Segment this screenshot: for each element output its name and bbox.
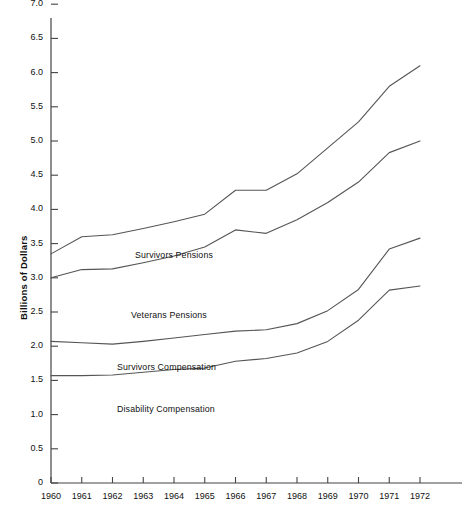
y-tick-label: 1.0 bbox=[9, 409, 43, 419]
line-chart-plot bbox=[0, 0, 470, 520]
y-tick-label: 0.5 bbox=[9, 443, 43, 453]
series-label-2: Survivors Compensation bbox=[117, 362, 216, 372]
y-tick-label: 5.5 bbox=[9, 101, 43, 111]
y-tick-label: 3.5 bbox=[9, 238, 43, 248]
x-tick-label: 1972 bbox=[400, 491, 440, 501]
series-line-0 bbox=[51, 66, 420, 254]
y-tick-label: 0 bbox=[9, 477, 43, 487]
chart-series-lines bbox=[51, 66, 420, 376]
series-label-3: Disability Compensation bbox=[117, 404, 215, 414]
y-tick-label: 3.0 bbox=[9, 272, 43, 282]
series-line-2 bbox=[51, 238, 420, 344]
chart-container: Billions of Dollars 00.51.01.52.02.53.03… bbox=[0, 0, 470, 520]
y-tick-label: 6.5 bbox=[9, 32, 43, 42]
series-line-1 bbox=[51, 141, 420, 278]
y-tick-label: 5.0 bbox=[9, 135, 43, 145]
y-tick-label: 1.5 bbox=[9, 374, 43, 384]
y-tick-label: 6.0 bbox=[9, 67, 43, 77]
y-tick-label: 4.5 bbox=[9, 169, 43, 179]
y-tick-label: 2.0 bbox=[9, 340, 43, 350]
y-tick-label: 7.0 bbox=[9, 0, 43, 8]
y-tick-label: 4.0 bbox=[9, 203, 43, 213]
y-tick-label: 2.5 bbox=[9, 306, 43, 316]
chart-axes bbox=[51, 4, 462, 483]
series-label-0: Survivors Pensions bbox=[135, 250, 213, 260]
series-label-1: Veterans Pensions bbox=[131, 310, 207, 320]
